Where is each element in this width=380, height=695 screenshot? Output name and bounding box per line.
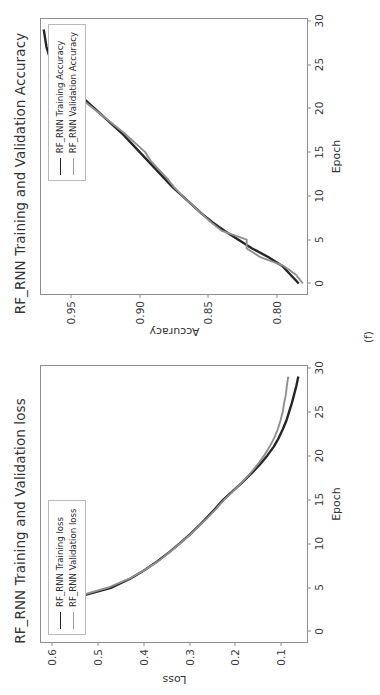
legend-line-swatch-icon [60, 158, 61, 175]
x-tick-mark [307, 631, 311, 632]
x-tick-label: 5 [313, 236, 325, 243]
x-tick-mark [307, 20, 311, 21]
x-tick-mark [307, 411, 311, 412]
y-tick-label: 0.3 [184, 649, 196, 666]
legend-item: RF_RNN Training Accuracy [54, 32, 67, 175]
y-tick-mark [189, 642, 190, 646]
legend-item: RF_RNN Validation Accuracy [67, 32, 80, 175]
figure-stage: RF_RNN Training and Validation loss Loss… [0, 0, 380, 695]
x-tick-label: 15 [313, 145, 325, 158]
x-tick-mark [307, 195, 311, 196]
x-tick-label: 15 [313, 493, 325, 506]
y-tick-mark [52, 642, 53, 646]
loss-x-axis-label: Epoch [330, 365, 343, 643]
x-tick-label: 5 [313, 584, 325, 591]
x-tick-label: 30 [313, 361, 325, 374]
y-tick-label: 0.1 [275, 649, 287, 666]
x-tick-label: 20 [313, 449, 325, 462]
x-tick-label: 30 [313, 14, 325, 27]
y-tick-label: 0.85 [202, 301, 214, 324]
y-tick-mark [208, 294, 209, 298]
x-tick-mark [307, 543, 311, 544]
x-tick-mark [307, 499, 311, 500]
legend-line-swatch-icon [73, 158, 74, 175]
x-tick-mark [307, 587, 311, 588]
accuracy-legend: RF_RNN Training Accuracy RF_RNN Validati… [48, 24, 86, 181]
x-tick-label: 10 [313, 537, 325, 550]
legend-line-swatch-icon [60, 612, 61, 629]
y-tick-mark [276, 294, 277, 298]
x-tick-mark [307, 283, 311, 284]
x-tick-mark [307, 64, 311, 65]
legend-item: RF_RNN Training loss [54, 508, 67, 629]
legend-line-swatch-icon [73, 612, 74, 629]
x-tick-mark [307, 455, 311, 456]
y-tick-mark [235, 642, 236, 646]
y-tick-mark [280, 642, 281, 646]
y-tick-mark [71, 294, 72, 298]
loss-panel: RF_RNN Training and Validation loss Loss… [0, 347, 380, 695]
x-tick-label: 0 [313, 628, 325, 635]
legend-label: RF_RNN Validation Accuracy [67, 32, 80, 153]
figure-caption: (f) [362, 331, 374, 343]
y-tick-label: 0.2 [229, 649, 241, 666]
y-tick-label: 0.95 [65, 301, 77, 324]
chart-series-line [56, 377, 298, 632]
loss-legend: RF_RNN Training loss RF_RNN Validation l… [48, 500, 86, 635]
legend-label: RF_RNN Training loss [54, 517, 67, 607]
y-tick-mark [139, 294, 140, 298]
y-tick-label: 0.5 [92, 649, 104, 666]
y-tick-label: 0.90 [134, 301, 146, 324]
y-tick-mark [98, 642, 99, 646]
chart-series-line [49, 30, 303, 284]
accuracy-chart-title: RF_RNN Training and Validation Accuracy [12, 0, 28, 347]
x-tick-mark [307, 367, 311, 368]
legend-item: RF_RNN Validation loss [67, 508, 80, 629]
y-tick-label: 0.4 [138, 649, 150, 666]
x-tick-mark [307, 239, 311, 240]
x-tick-label: 20 [313, 102, 325, 115]
x-tick-mark [307, 152, 311, 153]
chart-series-line [52, 377, 288, 632]
accuracy-x-axis-label: Epoch [330, 18, 343, 295]
y-tick-mark [143, 642, 144, 646]
legend-label: RF_RNN Training Accuracy [54, 41, 67, 154]
x-tick-label: 25 [313, 405, 325, 418]
accuracy-y-axis-label: Accuracy [40, 325, 308, 339]
x-tick-label: 10 [313, 189, 325, 202]
y-tick-label: 0.80 [271, 301, 283, 324]
legend-label: RF_RNN Validation loss [67, 508, 80, 607]
accuracy-panel: RF_RNN Training and Validation Accuracy … [0, 0, 380, 347]
x-tick-mark [307, 108, 311, 109]
x-tick-label: 25 [313, 58, 325, 71]
loss-y-axis-label: Loss [40, 673, 308, 687]
x-tick-label: 0 [313, 280, 325, 287]
y-tick-label: 0.6 [46, 649, 58, 666]
loss-chart-title: RF_RNN Training and Validation loss [12, 347, 28, 695]
